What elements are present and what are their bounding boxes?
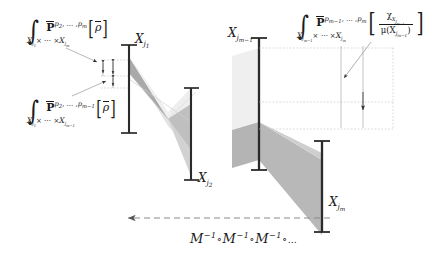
left-ray-a [129, 73, 168, 119]
integral-limit-3: Xjm−1× ⋯ ×Xjm [297, 32, 346, 41]
annotation-top-left-integral: ∫ Xj1× ⋯ ×Xjm Pp2, … ,pm[ρ] [26, 18, 109, 44]
left-pointer-top-formula [66, 48, 97, 62]
fraction-numerator: χXjm−1 [379, 10, 413, 24]
right-sheet-mid-dark [232, 122, 259, 168]
integral-sign-3: ∫ Xjm−1× ⋯ ×Xjm [296, 17, 310, 36]
fraction-denominator: μ(Xjm−1) [379, 24, 413, 37]
right-bar-bottom-label: Xjm [329, 196, 345, 210]
right-diagonal-pointer [344, 42, 371, 78]
integral-limit-1: Xj1× ⋯ ×Xjm [27, 37, 70, 46]
right-sheet-upper-light [232, 48, 259, 130]
left-pointer-mid-formula [72, 81, 106, 96]
integral-sign-1: ∫ Xj1× ⋯ ×Xjm [26, 22, 40, 41]
annotation-top-right-integral: ∫ Xjm−1× ⋯ ×Xjm Ppm−1, … ,pm[ χXjm−1 μ(X… [296, 10, 425, 42]
math-figure-root: ∫ Xj1× ⋯ ×Xjm Pp2, … ,pm[ρ] ∫ Xj1× ⋯ ×Xj… [0, 0, 438, 259]
left-wedge-dark-upper [129, 57, 168, 119]
chi-over-mu-fraction: χXjm−1 μ(Xjm−1) [377, 10, 415, 36]
integral-limit-2: Xj1× ⋯ ×Xjm−1 [27, 117, 75, 126]
left-bar-bottom-label: Xj2 [198, 172, 213, 186]
annotation-mid-left-integral: ∫ Xj1× ⋯ ×Xjm−1 Pp2, … ,pm−1[ρ] [26, 98, 117, 124]
right-bar-top-label: Xjm−1 [228, 27, 253, 41]
integral-sign-2: ∫ Xj1× ⋯ ×Xjm−1 [26, 102, 40, 121]
left-bar-top-label: Xj1 [135, 33, 150, 47]
composition-arrow-label: M−1∘M−1∘M−1∘… [190, 232, 297, 245]
right-diagram-group [232, 38, 393, 235]
